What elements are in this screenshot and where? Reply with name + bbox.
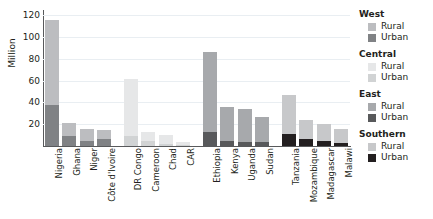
bar-segment-urban bbox=[220, 141, 234, 146]
bar-group-southern bbox=[280, 10, 350, 146]
bar-group-central bbox=[122, 10, 192, 146]
bar-segment-urban bbox=[45, 105, 59, 146]
bar-segment-urban bbox=[141, 141, 155, 146]
bar-segment-rural bbox=[238, 109, 252, 142]
x-axis-label: CAR bbox=[187, 148, 196, 166]
bar-segment-rural bbox=[97, 130, 111, 140]
bar-segment-rural bbox=[80, 129, 94, 141]
bar[interactable] bbox=[238, 109, 252, 146]
legend-swatch bbox=[368, 23, 376, 31]
bar[interactable] bbox=[176, 142, 190, 146]
x-axis-label: Côte d'Ivoire bbox=[108, 148, 117, 202]
x-axis-label: Malawi bbox=[345, 148, 354, 177]
x-axis-line bbox=[43, 146, 351, 147]
legend-label: Urban bbox=[381, 112, 408, 123]
bar[interactable] bbox=[203, 52, 217, 146]
x-axis-label: Mozambique bbox=[310, 148, 319, 202]
x-axis-label: Tanzania bbox=[292, 148, 301, 185]
bar-segment-rural bbox=[220, 107, 234, 141]
legend-item[interactable]: Rural bbox=[359, 101, 433, 112]
legend-swatch bbox=[368, 143, 376, 151]
y-tick-label: 100 bbox=[14, 33, 40, 42]
bar-segment-urban bbox=[124, 136, 138, 146]
y-axis-tick-labels: 20406080100120 bbox=[14, 10, 40, 150]
bar-segment-rural bbox=[255, 117, 269, 142]
legend-swatch bbox=[368, 34, 376, 42]
bar[interactable] bbox=[62, 123, 76, 146]
legend-group-title: Central bbox=[359, 48, 433, 60]
legend-item[interactable]: Rural bbox=[359, 61, 433, 72]
x-axis-label: Ethiopia bbox=[213, 148, 222, 183]
legend-label: Urban bbox=[381, 72, 408, 83]
bar[interactable] bbox=[334, 129, 348, 146]
legend-label: Rural bbox=[381, 101, 404, 112]
bar[interactable] bbox=[220, 107, 234, 146]
legend-group-central: CentralRuralUrban bbox=[359, 48, 433, 83]
bar-segment-urban bbox=[299, 139, 313, 146]
bar-segment-rural bbox=[282, 95, 296, 134]
bar-segment-urban bbox=[80, 141, 94, 146]
legend-item[interactable]: Rural bbox=[359, 21, 433, 32]
bars-layer bbox=[43, 10, 350, 146]
bar[interactable] bbox=[299, 120, 313, 146]
stacked-bar-chart: Million 20406080100120 NigeriaGhanaNiger… bbox=[0, 0, 433, 219]
bar-segment-urban bbox=[203, 132, 217, 146]
x-axis-label: Chad bbox=[169, 148, 178, 170]
y-tick-label: 120 bbox=[14, 11, 40, 20]
bar-segment-rural bbox=[176, 142, 190, 145]
legend-group-title: East bbox=[359, 88, 433, 100]
bar-segment-urban bbox=[317, 141, 331, 146]
bar[interactable] bbox=[45, 20, 59, 146]
bar-segment-rural bbox=[45, 20, 59, 105]
x-axis-label: Madagascar bbox=[327, 148, 336, 200]
legend-group-west: WestRuralUrban bbox=[359, 8, 433, 43]
y-tick-label: 60 bbox=[14, 76, 40, 85]
legend-item[interactable]: Urban bbox=[359, 32, 433, 43]
bar[interactable] bbox=[141, 132, 155, 146]
bar-segment-rural bbox=[334, 129, 348, 143]
bar[interactable] bbox=[124, 79, 138, 146]
bar-segment-urban bbox=[255, 142, 269, 146]
bar-segment-rural bbox=[299, 120, 313, 140]
bar-segment-urban bbox=[97, 139, 111, 146]
legend-swatch bbox=[368, 63, 376, 71]
bar[interactable] bbox=[282, 95, 296, 146]
bar[interactable] bbox=[255, 117, 269, 146]
y-tick-label: 20 bbox=[14, 120, 40, 129]
x-axis-label: Nigeria bbox=[55, 148, 64, 178]
plot-area bbox=[43, 10, 350, 146]
legend-item[interactable]: Urban bbox=[359, 72, 433, 83]
bar-segment-rural bbox=[141, 132, 155, 141]
x-axis-label: Uganda bbox=[248, 148, 257, 181]
legend-item[interactable]: Urban bbox=[359, 112, 433, 123]
x-axis-label: Ghana bbox=[73, 148, 82, 176]
bar-segment-rural bbox=[62, 123, 76, 136]
legend-label: Rural bbox=[381, 141, 404, 152]
legend-label: Urban bbox=[381, 152, 408, 163]
legend-item[interactable]: Rural bbox=[359, 141, 433, 152]
bar-segment-urban bbox=[62, 136, 76, 146]
x-axis-label: Kenya bbox=[231, 148, 240, 174]
x-axis-label: Niger bbox=[90, 148, 99, 171]
bar-segment-urban bbox=[238, 142, 252, 146]
bar-segment-rural bbox=[203, 52, 217, 131]
legend-item[interactable]: Urban bbox=[359, 152, 433, 163]
x-axis-category-labels: NigeriaGhanaNigerCôte d'IvoireDR CongoCa… bbox=[43, 148, 350, 218]
legend-swatch bbox=[368, 74, 376, 82]
bar-group-west bbox=[43, 10, 113, 146]
bar[interactable] bbox=[317, 124, 331, 146]
legend-swatch bbox=[368, 114, 376, 122]
legend-group-title: Southern bbox=[359, 128, 433, 140]
bar[interactable] bbox=[97, 130, 111, 146]
bar-group-east bbox=[201, 10, 271, 146]
bar-segment-urban bbox=[176, 145, 190, 146]
legend-group-title: West bbox=[359, 8, 433, 20]
legend-swatch bbox=[368, 154, 376, 162]
legend-swatch bbox=[368, 103, 376, 111]
bar-segment-urban bbox=[282, 134, 296, 146]
legend-group-east: EastRuralUrban bbox=[359, 88, 433, 123]
bar[interactable] bbox=[80, 129, 94, 146]
legend-label: Rural bbox=[381, 21, 404, 32]
bar[interactable] bbox=[159, 135, 173, 146]
x-axis-label: DR Congo bbox=[134, 148, 143, 190]
